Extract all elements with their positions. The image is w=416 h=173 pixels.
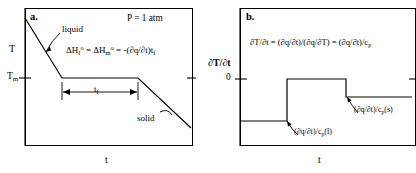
panel-a-cooling-curve	[25, 18, 191, 128]
panel-a: a. P = 1 atm T Tm t liquid solid tf ΔHfo…	[0, 0, 206, 173]
panel-a-tf-label-sub: f	[97, 88, 99, 95]
eq-a-equals2: =	[114, 45, 124, 55]
panel-a-solid-label: solid	[137, 114, 155, 123]
panel-b-x-axis-label: t	[318, 155, 321, 165]
panel-b-y-tick-zero: 0	[226, 73, 231, 83]
panel-a-y-axis-label: T	[9, 44, 15, 54]
panel-b-graphics	[206, 0, 412, 173]
panel-a-y-tick-tm: Tm	[7, 72, 18, 83]
panel-a-y-tick-tm-sub: m	[13, 75, 18, 82]
panel-b-solid-arrowhead	[347, 97, 352, 102]
panel-b-solid-level-main: (∂q/∂t)/c	[354, 105, 381, 114]
panel-b: b. ∂T/∂t 0 t ∂T/∂t = (∂q/∂t)/(∂q/∂T) = (…	[206, 0, 412, 173]
panel-a-letter: a.	[30, 12, 38, 23]
eq-b-sub: p	[368, 41, 371, 48]
panel-a-x-axis-label: t	[105, 155, 108, 165]
eq-a-equals1: =	[84, 45, 94, 55]
panel-b-liquid-level-main: (∂q/∂t)/c	[294, 127, 321, 136]
panel-a-liquid-label: liquid	[62, 25, 83, 34]
panel-a-solid-leader	[160, 111, 172, 115]
panel-b-y-axis-label: ∂T/∂t	[208, 58, 231, 68]
eq-a-rhs-sub: f	[153, 49, 155, 56]
panel-b-solid-level-tail: (s)	[384, 105, 392, 114]
panel-a-condition-label: P = 1 atm	[127, 14, 163, 23]
panel-b-letter: b.	[246, 12, 254, 23]
panel-a-tf-arrowhead-right	[130, 89, 137, 95]
panel-a-graphics	[0, 0, 206, 173]
eq-b-lhs: ∂T/∂t = (∂q/∂t)/(∂q/∂T) = (∂q/∂t)/c	[250, 37, 368, 47]
panel-a-tf-label: tf	[94, 85, 99, 95]
panel-b-liquid-arrowhead	[287, 121, 292, 126]
panel-a-tf-arrowhead-left	[63, 89, 70, 95]
panel-b-liquid-level-tail: (l)	[324, 127, 332, 136]
panel-b-derivative-equation: ∂T/∂t = (∂q/∂t)/(∂q/∂T) = (∂q/∂t)/cp	[250, 38, 371, 48]
eq-a-rhs: -(∂q/∂t)t	[123, 45, 153, 55]
panel-a-enthalpy-equation: ΔHfo = ΔHmo = -(∂q/∂t)tf	[66, 45, 155, 56]
panel-b-liquid-level-label: (∂q/∂t)/cp(l)	[294, 128, 332, 137]
panel-b-solid-level-label: (∂q/∂t)/cp(s)	[354, 106, 393, 115]
